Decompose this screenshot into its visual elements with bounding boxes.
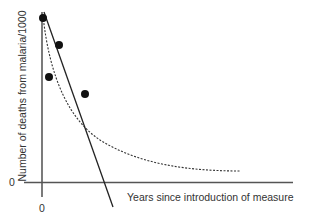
- data-point: [55, 41, 63, 49]
- fit-line: [44, 12, 113, 207]
- y-axis-label: Number of deaths from malaria/1000: [16, 11, 28, 182]
- y-tick-zero: 0: [9, 176, 15, 188]
- data-point: [39, 14, 47, 22]
- chart: Number of deaths from malaria/1000 Years…: [0, 0, 310, 223]
- x-axis-label: Years since introduction of measure: [127, 191, 294, 203]
- x-tick-zero: 0: [39, 202, 45, 214]
- data-point: [81, 90, 89, 98]
- plot-area: [0, 0, 310, 223]
- data-point: [45, 73, 53, 81]
